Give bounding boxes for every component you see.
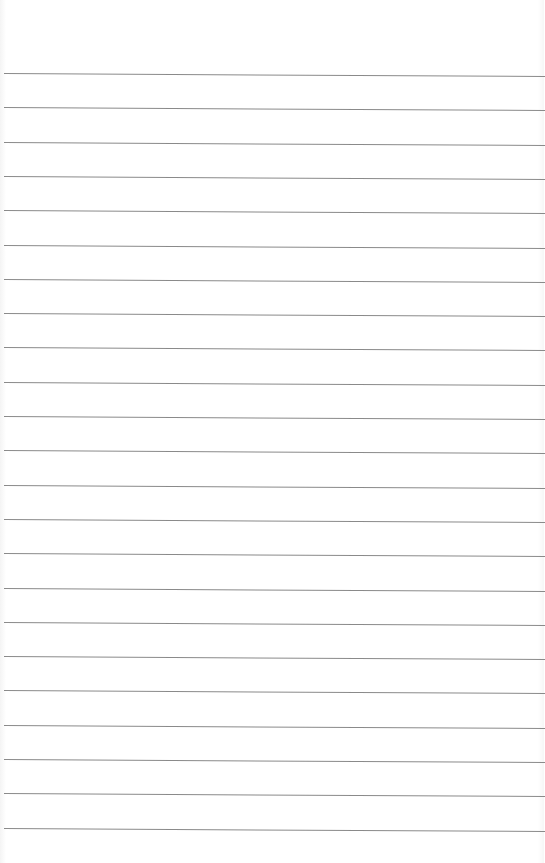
ruled-line (4, 588, 545, 592)
ruled-line (4, 725, 545, 729)
ruled-line (4, 107, 545, 111)
ruled-line (4, 245, 545, 249)
ruled-line (4, 450, 545, 454)
ruled-line (4, 279, 545, 283)
ruled-line (4, 210, 545, 214)
ruled-line (4, 313, 545, 317)
ruled-line (4, 519, 545, 523)
ruled-line (4, 690, 545, 694)
ruled-line (4, 485, 545, 489)
ruled-line (4, 553, 545, 557)
ruled-line (4, 656, 545, 660)
ruled-line (4, 382, 545, 386)
ruled-line (4, 347, 545, 351)
ruled-line (4, 793, 545, 797)
ruled-line (4, 416, 545, 420)
ruled-line (4, 142, 545, 146)
ruled-line (4, 73, 545, 77)
ruled-line (4, 622, 545, 626)
ruled-line (4, 759, 545, 763)
ruled-line (4, 828, 545, 832)
ruled-line (4, 176, 545, 180)
